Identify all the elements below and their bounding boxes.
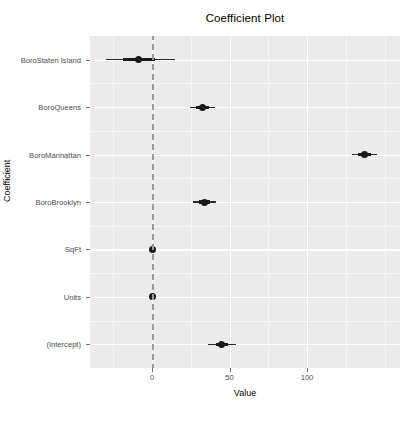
coefficient-plot: Coefficient Plot BoroStaten IslandBoroQu… [0, 0, 418, 422]
x-axis-tick [230, 368, 231, 372]
gridline-minor-y [90, 131, 400, 132]
y-axis-title: Coefficient [2, 160, 12, 202]
gridline-minor-y [90, 321, 400, 322]
y-axis-tick [86, 107, 90, 108]
x-axis-tick-label: 50 [225, 373, 233, 382]
gridline-major-y [90, 297, 400, 298]
x-axis-tick-label: 100 [301, 373, 314, 382]
y-axis-tick-label: (Intercept) [46, 340, 81, 349]
plot-panel [90, 36, 400, 368]
gridline-minor-y [90, 226, 400, 227]
y-axis-tick [86, 249, 90, 250]
y-axis-tick [86, 344, 90, 345]
y-axis-tick [86, 202, 90, 203]
x-axis-tick-label: 0 [150, 373, 154, 382]
gridline-minor-y [90, 83, 400, 84]
y-axis-tick [86, 60, 90, 61]
gridline-major-y [90, 202, 400, 203]
y-axis-tick-label: BoroBrooklyn [35, 198, 81, 207]
coefficient-point[interactable] [201, 199, 208, 206]
y-axis-tick-label: SqFt [65, 245, 81, 254]
zero-reference-line [152, 36, 154, 368]
plot-title: Coefficient Plot [90, 12, 400, 24]
y-axis-tick-label: BoroStaten Island [21, 55, 81, 64]
y-axis-tick-label: BoroQueens [38, 103, 81, 112]
gridline-minor-y [90, 273, 400, 274]
gridline-major-y [90, 344, 400, 345]
coefficient-point[interactable] [135, 56, 142, 63]
coefficient-point[interactable] [361, 151, 368, 158]
y-axis-tick-label: Units [64, 292, 81, 301]
y-axis-tick [86, 297, 90, 298]
coefficient-point[interactable] [218, 341, 225, 348]
coefficient-point[interactable] [199, 104, 206, 111]
gridline-minor-y [90, 178, 400, 179]
y-axis-tick-label: BoroManhattan [29, 150, 81, 159]
x-axis-tick [152, 368, 153, 372]
y-axis-tick [86, 155, 90, 156]
x-axis-tick [307, 368, 308, 372]
gridline-major-y [90, 107, 400, 108]
gridline-major-y [90, 249, 400, 250]
x-axis-title: Value [90, 388, 400, 398]
